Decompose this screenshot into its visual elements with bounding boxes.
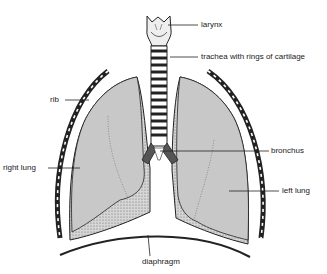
label-right-lung: right lung [3,164,36,172]
respiratory-diagram [0,0,327,274]
label-bronchus: bronchus [271,147,304,155]
diaphragm-shape [60,236,250,257]
label-trachea: trachea with rings of cartilage [201,53,305,61]
label-diaphragm: diaphragm [142,258,180,266]
trachea-shape [151,46,167,146]
label-left-lung: left lung [282,187,310,195]
label-rib: rib [50,96,59,104]
label-larynx: larynx [201,21,222,29]
larynx-shape [147,16,171,46]
